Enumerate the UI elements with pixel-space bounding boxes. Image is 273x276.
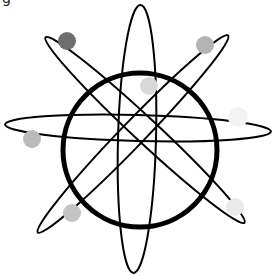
electron-dot <box>23 130 41 148</box>
electron-dot <box>196 36 214 54</box>
orbit-diagonal-nw-se <box>37 28 252 231</box>
atom-diagram <box>0 0 273 276</box>
nucleus-ring <box>63 73 217 227</box>
electron-dot <box>140 77 158 95</box>
electron-dot <box>226 198 244 216</box>
electron-dot <box>63 204 81 222</box>
electron-dot <box>228 107 248 127</box>
electron-dot <box>58 32 76 50</box>
orbit-group <box>5 5 272 274</box>
